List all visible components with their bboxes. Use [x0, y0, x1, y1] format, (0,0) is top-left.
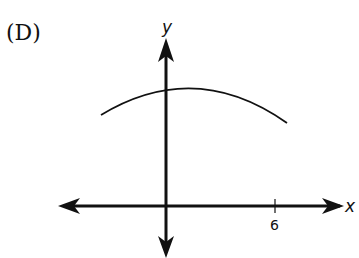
x-axis: [58, 198, 344, 214]
parabola-curve: [101, 88, 287, 123]
y-axis-label: y: [161, 17, 173, 37]
tick-label-6: 6: [270, 217, 279, 233]
graph: 6 y x: [0, 0, 359, 258]
x-axis-label: x: [344, 196, 356, 216]
y-axis: [158, 38, 174, 258]
